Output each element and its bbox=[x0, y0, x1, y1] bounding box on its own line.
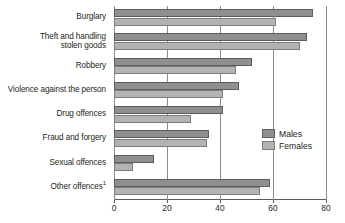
bar-males-7 bbox=[114, 179, 270, 187]
chart-legend: Males Females bbox=[262, 128, 340, 152]
legend-item-males: Males bbox=[262, 128, 340, 139]
bar-males-0 bbox=[114, 9, 313, 17]
category-label-0: Burglary bbox=[76, 12, 106, 21]
bar-chart: BurglaryTheft and handlingstolen goodsRo… bbox=[0, 0, 345, 223]
bar-females-2 bbox=[114, 66, 236, 74]
x-tick-label-0: 0 bbox=[112, 203, 117, 213]
bar-males-1 bbox=[114, 33, 307, 41]
plot-area bbox=[114, 6, 326, 200]
bar-females-5 bbox=[114, 139, 207, 147]
legend-label-males: Males bbox=[279, 129, 302, 139]
bar-females-1 bbox=[114, 42, 300, 50]
bar-males-2 bbox=[114, 58, 252, 66]
x-tick-label-60: 60 bbox=[268, 203, 277, 213]
bar-males-6 bbox=[114, 155, 154, 163]
bar-males-5 bbox=[114, 130, 209, 138]
category-label-1: Theft and handlingstolen goods bbox=[40, 32, 106, 51]
category-label-2: Robbery bbox=[76, 61, 106, 70]
bar-females-7 bbox=[114, 187, 260, 195]
legend-label-females: Females bbox=[279, 141, 312, 151]
bar-females-3 bbox=[114, 90, 223, 98]
bar-females-0 bbox=[114, 18, 276, 26]
x-tick-label-80: 80 bbox=[321, 203, 330, 213]
gridline-80 bbox=[326, 6, 327, 200]
x-tick-label-40: 40 bbox=[215, 203, 224, 213]
category-label-4: Drug offences bbox=[56, 109, 106, 118]
category-label-6: Sexual offences bbox=[49, 158, 106, 167]
legend-item-females: Females bbox=[262, 140, 340, 151]
category-label-5: Fraud and forgery bbox=[43, 133, 106, 142]
bar-males-3 bbox=[114, 82, 239, 90]
legend-swatch-females-icon bbox=[262, 141, 275, 150]
legend-swatch-males-icon bbox=[262, 129, 275, 138]
category-label-3: Violence against the person bbox=[8, 85, 106, 94]
category-label-7: Other offences1 bbox=[51, 182, 106, 191]
category-axis-labels: BurglaryTheft and handlingstolen goodsRo… bbox=[0, 6, 110, 200]
x-tick-label-20: 20 bbox=[162, 203, 171, 213]
bar-males-4 bbox=[114, 106, 223, 114]
bar-females-6 bbox=[114, 163, 133, 171]
bar-females-4 bbox=[114, 115, 191, 123]
